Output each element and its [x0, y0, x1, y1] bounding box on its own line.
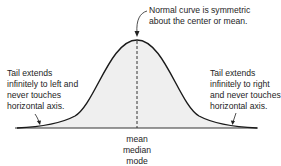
arrowhead-icon — [231, 121, 235, 126]
annotation-line: Tail extends — [210, 68, 281, 79]
symmetry-annotation: Normal curve is symmetric about the cent… — [149, 5, 250, 27]
annotation-line: horizontal axis. — [210, 101, 281, 112]
median-label: median — [117, 145, 157, 156]
normal-curve-diagram: Normal curve is symmetric about the cent… — [0, 0, 281, 166]
annotation-line: never touches — [7, 90, 78, 101]
mode-label: mode — [117, 156, 157, 166]
arrowhead-icon — [135, 31, 140, 37]
right-tail-annotation: Tail extends infinitely to right and nev… — [210, 68, 281, 112]
top-annotation-arrow — [137, 11, 147, 33]
annotation-line: Tail extends — [7, 68, 78, 79]
annotation-line: infinitely to right — [210, 79, 281, 90]
annotation-line: infinitely to left and — [7, 79, 78, 90]
left-tail-annotation: Tail extends infinitely to left and neve… — [7, 68, 78, 112]
left-tail-arrow — [35, 114, 39, 122]
annotation-line: horizontal axis. — [7, 101, 78, 112]
center-measures-labels: mean median mode — [117, 134, 157, 166]
arrowhead-icon — [37, 121, 41, 126]
annotation-line: and never touches — [210, 90, 281, 101]
right-tail-arrow — [233, 113, 236, 122]
annotation-line: about the center or mean. — [149, 16, 250, 27]
mean-label: mean — [117, 134, 157, 145]
annotation-line: Normal curve is symmetric — [149, 5, 250, 16]
